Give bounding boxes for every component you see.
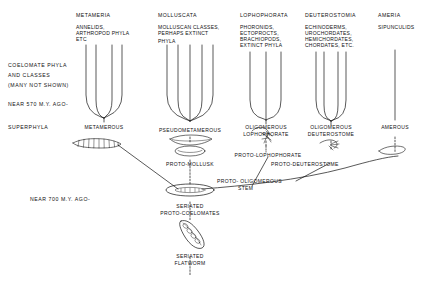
diagram-line-layer [0,0,428,281]
column-heading-metameria: METAMERIA [76,12,111,19]
column-heading-deuterostomia: DEUTEROSTOMIA [305,12,356,19]
node-label-pseudometamerous: PSEUDOMETAMEROUS [159,127,221,134]
column-member-molluscata-1: PERHAPS EXTINCT [158,30,208,37]
molluscata-branch-group [167,45,213,121]
metamerous-worm-drawing [73,139,121,148]
deuterostomia-branch-group [316,52,346,125]
column-heading-lophophorata: LOPHOPHORATA [240,12,288,19]
column-member-lophophorata-3: EXTINCT PHYLA [240,42,282,49]
node-label-seriated-protocoelomates-line1: SERIATED [176,203,203,210]
side-label-coelomate-line1: COELOMATE PHYLA [8,62,67,69]
node-label-seriated-protocoelomates-line2: PROTO-COELOMATES [160,210,219,217]
side-label-superphyla: SUPERPHYLA [8,124,48,131]
node-label-oligomerous-lophophorate-line2: LOPHOPHORATE [243,131,289,138]
amerous-sipunculid-drawing [379,146,405,154]
node-label-oligomerous-deuterostome-line2: DEUTEROSTOME [308,131,354,138]
column-member-molluscata-2: PHYLA [158,38,176,45]
node-label-proto-lophophorate: PROTO-LOPHOPHORATE [235,152,302,159]
proto-mollusk-drawing [175,146,205,156]
seriated-flatworm-drawing [180,220,204,248]
diagram-canvas: COELOMATE PHYLA AND CLASSES (MANY NOT SH… [0,0,428,281]
node-label-oligomerous-deuterostome-line1: OLIGOMEROUS [310,124,352,131]
column-heading-molluscata: MOLLUSCATA [158,12,197,19]
lophophorata-branch-group [250,52,281,124]
node-label-proto-mollusk: PROTO-MOLLUSK [166,161,214,168]
node-label-oligomerous-lophophorate-line1: OLIGOMEROUS [245,124,287,131]
side-label-coelomate-line3: (MANY NOT SHOWN) [8,82,69,89]
node-label-proto-deuterostome: PROTO-DEUTEROSTOME [271,161,339,168]
side-label-time-570: NEAR 570 M.Y. AGO- [8,101,68,108]
column-member-metameria-2: ETC [76,36,87,43]
seriated-protocoelomate-drawing [166,184,214,196]
node-label-metamerous: METAMEROUS [85,124,124,131]
metameria-branch-group [86,45,122,122]
node-label-amerous: AMEROUS [381,124,409,131]
node-label-seriated-flatworm-line2: FLATWORM [174,260,205,267]
oligomerous-deuterostome-drawing [320,140,339,150]
column-heading-ameria: AMERIA [378,12,401,19]
pseudometamerous-mollusk-drawing [170,135,212,145]
column-member-deuterostomia-3: CHORDATES, ETC. [305,42,354,49]
node-label-proto-oligomerous-stem-line2: STEM [238,185,253,192]
side-label-coelomate-line2: AND CLASSES [8,72,50,79]
column-member-ameria-0: SIPUNCULIDS [378,24,414,31]
side-label-time-700: NEAR 700 M.Y. AGO- [30,196,90,203]
node-label-proto-oligomerous-stem-line1: PROTO- OLIGOMEROUS [217,178,282,185]
node-label-seriated-flatworm-line1: SERIATED [176,253,203,260]
